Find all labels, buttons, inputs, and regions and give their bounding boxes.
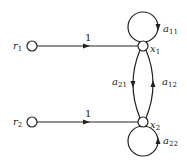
node-x2 xyxy=(138,117,148,127)
arrow-a22 xyxy=(156,137,161,144)
arrow-r1-x1 xyxy=(83,44,90,49)
label-x1: x1 xyxy=(150,43,160,56)
gain-a12: a12 xyxy=(162,76,177,89)
arrow-a11 xyxy=(156,24,161,31)
label-r2: r2 xyxy=(13,116,22,129)
node-r2 xyxy=(27,117,37,127)
gain-a11: a11 xyxy=(163,23,178,36)
gain-a21: a21 xyxy=(112,76,127,89)
gain-r2-x2: 1 xyxy=(85,108,91,119)
label-r1: r1 xyxy=(13,40,22,53)
label-x2: x2 xyxy=(150,119,160,132)
self-loop-a11 xyxy=(128,12,158,42)
gain-a22: a22 xyxy=(163,135,178,148)
gain-r1-x1: 1 xyxy=(85,32,91,43)
arrow-r2-x2 xyxy=(83,120,90,125)
arrow-a12 xyxy=(151,80,156,87)
signal-flow-graph: r1 x1 r2 x2 1 1 a11 a22 a21 a12 xyxy=(0,0,187,162)
self-loop-a22 xyxy=(128,126,158,156)
arrow-a21 xyxy=(131,81,136,88)
node-r1 xyxy=(27,41,37,51)
node-x1 xyxy=(138,41,148,51)
